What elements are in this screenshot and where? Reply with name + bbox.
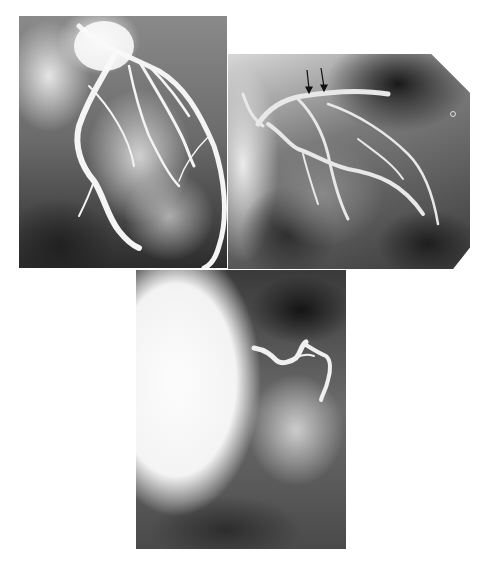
angiogram-panel-b xyxy=(228,54,470,269)
marker-dot xyxy=(451,112,456,117)
arrow-icon xyxy=(307,70,309,89)
angiogram-panel-c xyxy=(136,270,346,549)
arrow-icon xyxy=(321,68,324,87)
arrow-icon xyxy=(306,87,312,93)
angiogram-panel-a xyxy=(19,16,227,268)
arrow-icon xyxy=(321,85,327,91)
vessel-tree-c xyxy=(136,270,346,549)
annotation-arrows xyxy=(228,54,470,269)
vessel-tree-a xyxy=(19,16,227,268)
